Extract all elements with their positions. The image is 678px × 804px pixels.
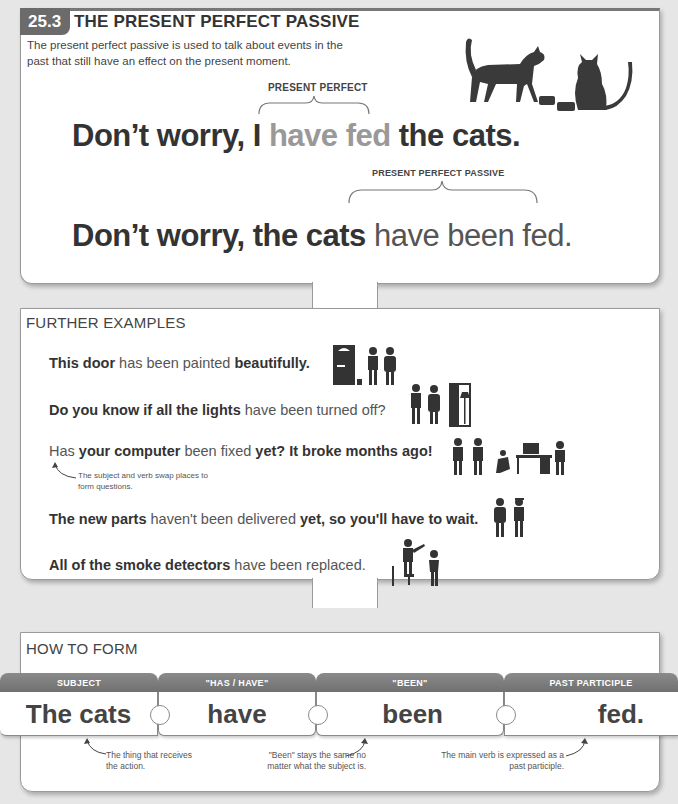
example-3: Has your computer been fixed yet? It bro… [49, 443, 433, 459]
example-5: All of the smoke detectors have been rep… [49, 557, 366, 573]
page-title: THE PRESENT PERFECT PASSIVE [74, 12, 360, 32]
note-participle: The main verb is expressed as a past par… [440, 750, 564, 772]
note-subject: The thing that receives the action. [106, 750, 196, 772]
arrow-participle-icon [560, 738, 590, 760]
delivery-people-icon [491, 497, 536, 541]
example-2: Do you know if all the lights have been … [49, 402, 386, 418]
highlight-have-fed: have fed [269, 118, 391, 153]
highlight-have-been-fed: have been fed. [374, 218, 572, 253]
painter-door-icon [333, 343, 403, 388]
cats-with-food-bowls-icon [460, 32, 640, 114]
example-1: This door has been painted beautifully. [49, 355, 310, 371]
how-to-form-heading: HOW TO FORM [26, 640, 138, 657]
has-word: Has [49, 443, 75, 459]
piece-past-participle: fed. [504, 692, 678, 736]
computer-repair-icon [448, 437, 568, 477]
piece-subject: The cats [0, 692, 158, 736]
puzzle-knob [496, 705, 516, 725]
further-examples-heading: FURTHER EXAMPLES [26, 314, 186, 331]
brace-present-perfect-passive [348, 180, 538, 204]
puzzle-knob [308, 705, 328, 725]
intro-text: The present perfect passive is used to t… [27, 37, 347, 69]
sentence-passive: Don’t worry, the cats have been fed. [72, 218, 572, 254]
puzzle-knob [150, 705, 170, 725]
brace-present-perfect [258, 95, 370, 115]
section-number-badge: 25.3 [20, 8, 70, 35]
example-4: The new parts haven't been delivered yet… [49, 511, 478, 527]
sentence-active: Don’t worry, I have fed the cats. [72, 118, 520, 154]
piece-header-been: "BEEN" [316, 673, 504, 693]
panel-connector [312, 578, 378, 608]
piece-header-past-participle: PAST PARTICIPLE [504, 673, 678, 693]
smoke-detector-icon [384, 538, 449, 588]
question-note: The subject and verb swap places to form… [78, 470, 218, 492]
label-present-perfect-passive: PRESENT PERFECT PASSIVE [372, 168, 504, 178]
piece-header-has-have: "HAS / HAVE" [158, 673, 316, 693]
piece-header-subject: SUBJECT [0, 673, 158, 693]
piece-has-have: have [158, 692, 316, 736]
piece-been: been [316, 692, 504, 736]
people-lamp-icon [406, 382, 481, 427]
note-been: "Been" stays the same no matter what the… [266, 750, 366, 772]
label-present-perfect: PRESENT PERFECT [268, 82, 368, 93]
